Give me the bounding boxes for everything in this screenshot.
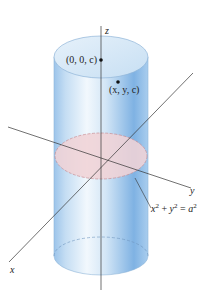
cylinder-diagram: z y x (0, 0, c) (x, y, c) x2 + y2 = a2 [0,0,213,292]
point-label-x-y-c: (x, y, c) [109,85,139,95]
cylinder-equation: x2 + y2 = a2 [151,204,197,214]
z-axis-label: z [105,26,109,36]
point-0-0-c [99,58,103,62]
y-axis-label: y [190,186,194,196]
point-label-0-0-c: (0, 0, c) [66,55,97,65]
diagram-graphic [0,0,213,292]
x-axis-label: x [10,265,14,275]
